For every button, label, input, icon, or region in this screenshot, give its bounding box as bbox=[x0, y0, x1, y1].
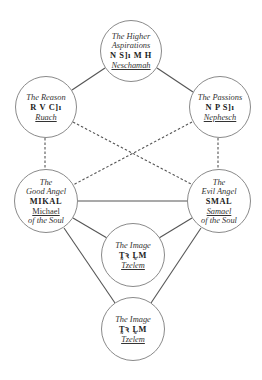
edge-smal-tzelem1 bbox=[159, 218, 192, 238]
node-title: The Image bbox=[115, 315, 151, 324]
node-hebrew-letters: SMAL bbox=[206, 197, 233, 206]
node-title: Evil Angel bbox=[202, 187, 237, 196]
edge-mikal-tzelem1 bbox=[73, 218, 107, 238]
node-image-upper: The Image T̰ꝛ L̰M Tzelem bbox=[101, 223, 165, 287]
node-good-angel: The Good Angel MIKAL Michael of the Soul bbox=[14, 169, 78, 233]
node-name: Tzelem bbox=[121, 261, 145, 270]
node-hebrew-letters: T̰ꝛ L̰M bbox=[119, 251, 147, 260]
node-hebrew-letters: MIKAL bbox=[30, 197, 62, 206]
node-passions: The Passions N P S]ı Nephesch bbox=[189, 76, 251, 138]
node-title: The Higher bbox=[112, 32, 150, 41]
node-evil-angel: The Evil Angel SMAL Samael of the Soul bbox=[187, 169, 251, 233]
node-hebrew-letters: T̰ꝛ L̰M bbox=[119, 325, 147, 334]
edge-neschamah-nephesch bbox=[157, 68, 193, 92]
node-subtitle: of the Soul bbox=[201, 216, 237, 225]
edge-neschamah-ruach bbox=[72, 68, 105, 90]
node-name: Michael bbox=[32, 207, 59, 216]
node-hebrew-letters: N P S]ı bbox=[206, 103, 235, 112]
node-title: The bbox=[213, 178, 226, 187]
node-title: The Passions bbox=[198, 93, 242, 102]
node-higher-aspirations: The Higher Aspirations N S]ı M H Nescham… bbox=[100, 20, 162, 82]
node-hebrew-letters: N S]ı M H bbox=[110, 51, 152, 60]
node-title: Good Angel bbox=[26, 187, 66, 196]
node-name: Nephesch bbox=[204, 113, 237, 122]
node-title: The bbox=[40, 178, 53, 187]
node-hebrew-letters: R V C]ı bbox=[30, 103, 61, 112]
node-name: Tzelem bbox=[121, 335, 145, 344]
node-title: The Image bbox=[115, 241, 151, 250]
node-name: Samael bbox=[207, 207, 232, 216]
node-subtitle: of the Soul bbox=[28, 216, 64, 225]
node-name: Neschamah bbox=[111, 61, 150, 70]
node-reason: The Reason R V C]ı Ruach bbox=[15, 76, 77, 138]
node-title: The Reason bbox=[26, 93, 65, 102]
node-title: Aspirations bbox=[112, 41, 151, 50]
node-image-lower: The Image T̰ꝛ L̰M Tzelem bbox=[101, 297, 165, 361]
node-name: Ruach bbox=[35, 113, 56, 122]
